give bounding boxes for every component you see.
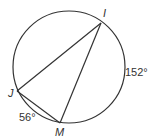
arc-label-JM: 56° [19,111,36,123]
point-label-J: J [7,87,14,99]
segment-IM [60,23,101,123]
point-label-M: M [55,126,65,138]
point-label-I: I [103,7,106,19]
arc-label-IM: 152° [125,66,148,78]
circle-diagram: I J M 152° 56° [0,0,155,139]
circle [13,11,125,123]
segment-IJ [17,23,101,91]
